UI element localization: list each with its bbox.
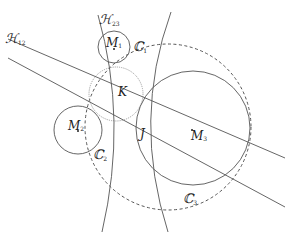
label-m3: M3 [190,129,207,143]
label-h12: ℋ12 [5,31,26,46]
line-h12 [8,39,285,158]
label-k: K [117,85,128,99]
label-c3: ℂ3 [183,191,197,206]
line-second [8,58,285,207]
label-j: J [137,127,146,141]
label-h23: ℋ23 [99,12,120,27]
label-m1: M1 [105,36,122,50]
label-m2: M2 [67,119,84,133]
label-c1: ℂ1 [133,39,147,54]
geometry-figure: ℋ12 ℋ23 M1 ℂ1 K M2 ℂ2 J M3 ℂ3 [0,0,296,241]
diagram-canvas: ℋ12 ℋ23 M1 ℂ1 K M2 ℂ2 J M3 ℂ3 [0,0,296,241]
label-c2: ℂ2 [93,147,107,162]
